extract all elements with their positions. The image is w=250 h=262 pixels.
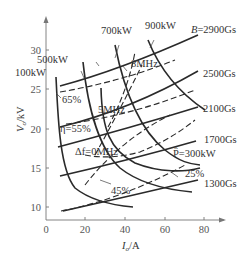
label-f5mhz: 5MHz [98, 104, 125, 115]
curve-p500 [83, 62, 192, 192]
label-100kw: 100kW [15, 67, 46, 78]
y-tick-15: 15 [31, 163, 42, 174]
curve-eta55 [66, 90, 195, 124]
label-500kw: 500kW [37, 54, 68, 65]
y-tick-10: 10 [31, 202, 42, 213]
label-b1300: 1300Gs [204, 178, 237, 189]
label-700kw: 700kW [101, 25, 132, 36]
label-b2900: B=2900Gs [191, 24, 236, 35]
x-tick-60: 60 [160, 224, 171, 235]
y-tick-20: 20 [31, 124, 42, 135]
label-b2500: 2500Gs [203, 68, 236, 79]
label-eta45: 45% [111, 185, 131, 196]
line-b2900 [60, 35, 198, 86]
label-eta65: 65% [62, 94, 82, 105]
x-axis-title: Io/A [121, 240, 140, 253]
label-b2100: 2100Gs [203, 103, 236, 114]
x-tick-80: 80 [199, 224, 210, 235]
label-900kw: 900kW [145, 20, 176, 31]
axes [44, 16, 227, 223]
curve-p900 [148, 40, 205, 110]
x-tick-40: 40 [120, 224, 131, 235]
x-tick-labels: 0 20 40 60 80 [43, 224, 209, 235]
y-axis-title: Vo/kV [15, 106, 28, 132]
y-axis-arrow-icon [44, 16, 49, 23]
label-f8mhz: 8MHz [131, 58, 158, 69]
label-df0mhz: Δf=0MHz [75, 146, 118, 157]
curve-labels: 100kW 500kW 700kW 900kW B=2900Gs 2500Gs … [15, 20, 237, 196]
chart: 10 15 20 25 30 0 20 40 60 80 Io/A Vo/kV [0, 0, 250, 262]
label-eta25: 25% [185, 168, 205, 179]
y-tick-25: 25 [31, 84, 42, 95]
x-axis-arrow-icon [219, 218, 226, 223]
x-tick-20: 20 [80, 224, 91, 235]
label-p300kw: P̂=300kW [173, 147, 216, 159]
label-b1700: 1700Gs [204, 134, 237, 145]
label-eta55: η=55% [60, 123, 91, 134]
x-tick-0: 0 [43, 224, 48, 235]
